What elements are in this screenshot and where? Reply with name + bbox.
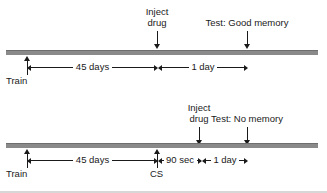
interval-45-days-label: 45 days — [27, 61, 158, 72]
time-axis-bar — [6, 143, 318, 148]
interval-1-day-label: 1 day — [158, 61, 248, 72]
event-label-test-good-memory: Test: Good memory — [188, 18, 306, 29]
footer-divider — [0, 191, 327, 193]
marker-label-train: Train — [6, 75, 27, 86]
marker-label-cs: CS — [150, 168, 163, 179]
timeline-no-memory: Inject drug Test: No memory Train CS — [0, 96, 327, 193]
marker-label-train: Train — [6, 168, 27, 179]
interval-1-day: 1 day — [202, 155, 248, 166]
interval-90-sec: 90 sec — [158, 155, 202, 166]
event-label-test-no-memory: Test: No memory — [192, 114, 302, 125]
interval-45-days-label: 45 days — [27, 154, 158, 165]
interval-45-days: 45 days — [27, 62, 158, 73]
time-axis-bar — [6, 50, 318, 55]
interval-45-days: 45 days — [27, 155, 158, 166]
interval-1-day-label: 1 day — [202, 154, 248, 165]
experiment-timeline-figure: Inject drug Test: Good memory Train 45 d… — [0, 0, 327, 193]
event-label-inject-drug: Inject drug — [134, 7, 180, 28]
interval-90-sec-label: 90 sec — [158, 154, 202, 165]
interval-1-day: 1 day — [158, 62, 248, 73]
test-arrow-icon — [243, 31, 252, 49]
inject-drug-arrow-icon — [153, 31, 162, 49]
timeline-good-memory: Inject drug Test: Good memory Train 45 d… — [0, 0, 327, 97]
